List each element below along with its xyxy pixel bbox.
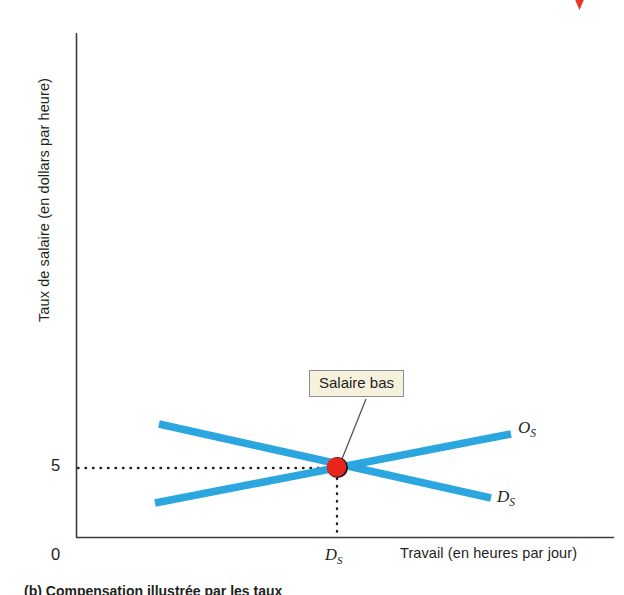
salaire-bas-callout: Salaire bas [309,370,404,397]
supply-curve-label-sub: S [530,427,536,439]
chart-canvas [0,0,624,595]
origin-tick-label: 0 [51,545,60,564]
callout-leader-line [340,399,366,464]
wage-rate-supply-demand-figure: Taux de salaire (en dollars par heure) T… [0,0,624,595]
x-tick-qs-base: D [325,545,337,564]
equilibrium-point [327,457,348,478]
demand-curve-label-base: D [497,487,509,506]
supply-curve-label-base: O [518,418,530,437]
y-tick-label-5: 5 [51,456,60,475]
figure-caption: (b) Compensation illustrée par les taux [24,583,282,595]
y-axis-label: Taux de salaire (en dollars par heure) [36,10,52,390]
x-tick-label-qs: DS [325,545,342,566]
demand-curve-label-sub: S [509,496,515,508]
demand-curve-ds [159,424,491,498]
supply-curve-label: OS [518,418,536,439]
x-axis-label: Travail (en heures par jour) [400,545,577,561]
red-diamond-marker [570,0,589,10]
demand-curve-label: DS [497,487,515,508]
x-tick-qs-sub: S [337,554,343,566]
